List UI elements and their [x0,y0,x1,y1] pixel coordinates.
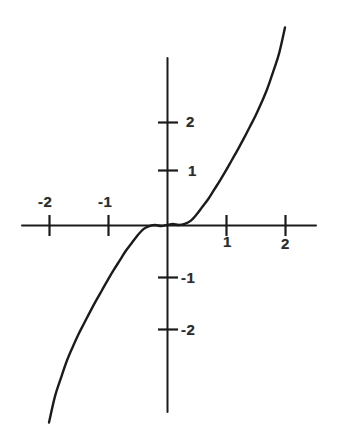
x-tick-label-pos2: 2 [281,236,290,251]
x-tick-label-neg2: -2 [38,194,52,209]
graph-figure: -2 -1 1 2 2 1 -1 -2 [0,0,342,440]
x-tick-label-pos1: 1 [223,234,232,249]
x-tick-label-neg1: -1 [98,194,112,209]
y-tick-label-neg2: -2 [181,322,195,337]
graph-canvas [0,0,342,440]
y-tick-label-pos2: 2 [186,114,195,129]
y-tick-label-pos1: 1 [188,163,197,178]
y-tick-label-neg1: -1 [181,270,195,285]
